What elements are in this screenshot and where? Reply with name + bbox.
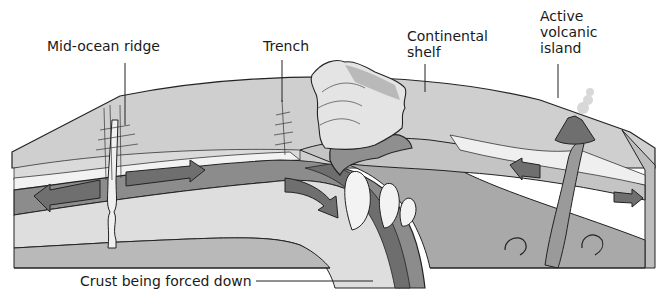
label-trench: Trench	[263, 38, 309, 54]
label-volcanic-island-line2: volcanic	[540, 24, 597, 40]
label-continental-shelf-line2: shelf	[407, 44, 488, 60]
label-mid-ocean-ridge: Mid-ocean ridge	[47, 38, 160, 54]
label-volcanic-island-line3: island	[540, 40, 597, 56]
label-crust-being-forced-down: Crust being forced down	[80, 273, 252, 289]
volcano-smoke	[577, 88, 594, 114]
label-continental-shelf-line1: Continental	[407, 28, 488, 44]
label-continental-shelf: Continental shelf	[407, 28, 488, 60]
label-volcanic-island-line1: Active	[540, 8, 597, 24]
label-active-volcanic-island: Active volcanic island	[540, 8, 597, 56]
